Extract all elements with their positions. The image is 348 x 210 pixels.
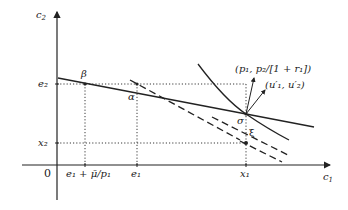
point-alpha xyxy=(135,82,138,85)
x-tick-e1: e₁ xyxy=(131,169,141,179)
y-tick-x2: x₂ xyxy=(38,138,48,148)
diagram: c2 c1 0 e₁ + μ̄/p₁ e₁ x₁ e₂ x₂ β α σ ξ (… xyxy=(0,0,348,210)
axis-ticks xyxy=(55,84,246,167)
label-price-vector: (p₁, p₂/[1 + r₁]) xyxy=(235,64,311,74)
indifference-curve xyxy=(198,64,289,140)
x-tick-x1: x₁ xyxy=(240,169,250,179)
y-tick-e2: e₂ xyxy=(38,79,48,89)
point-sigma xyxy=(244,112,247,115)
x-axis-label: c1 xyxy=(323,172,333,184)
label-beta: β xyxy=(81,69,87,79)
point-beta xyxy=(83,82,86,85)
x-tick-e1-plus-mu: e₁ + μ̄/p₁ xyxy=(66,169,111,179)
origin-label: 0 xyxy=(44,168,51,179)
point-xi xyxy=(244,141,248,145)
dashed-lines xyxy=(130,80,290,162)
label-xi: ξ xyxy=(249,128,255,138)
diagram-canvas xyxy=(0,0,348,210)
label-alpha: α xyxy=(128,92,135,102)
y-axis-label: c2 xyxy=(36,10,46,22)
label-sigma: σ xyxy=(237,116,244,126)
label-gradient-vector: (u′₁, u′₂) xyxy=(265,80,305,90)
